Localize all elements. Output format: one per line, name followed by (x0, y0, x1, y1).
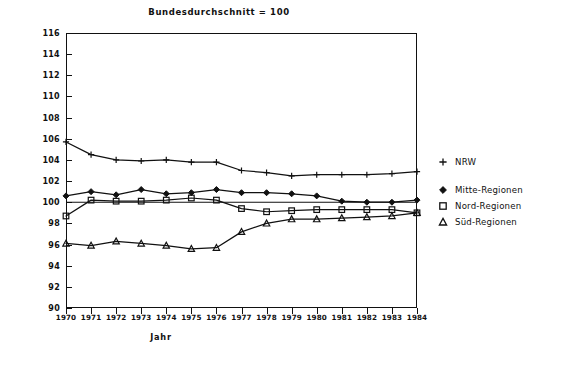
series-s-d-regionen (63, 210, 420, 252)
x-tick-label: 1976 (206, 313, 226, 322)
plus-marker-icon (389, 171, 395, 177)
y-tick-label: 94 (26, 261, 60, 270)
plus-marker-icon (238, 167, 244, 173)
x-tick-label: 1973 (131, 313, 151, 322)
plus-marker-icon (163, 157, 169, 163)
x-tick-label: 1982 (357, 313, 377, 322)
legend-item-label: NRW (450, 157, 476, 167)
plus-marker-icon (289, 173, 295, 179)
diamond-marker-icon (436, 183, 450, 197)
diamond-marker-icon (264, 190, 270, 196)
x-tick-label: 1972 (106, 313, 126, 322)
diamond-marker-icon (113, 192, 119, 198)
x-tick-label: 1974 (156, 313, 176, 322)
legend-item-label: Mitte-Regionen (450, 185, 523, 195)
y-tick-label: 114 (26, 50, 60, 59)
plus-marker-icon (188, 159, 194, 165)
legend-item-nrw[interactable]: NRW (436, 155, 560, 169)
plus-marker-icon (113, 157, 119, 163)
series-layer (66, 33, 417, 308)
plus-marker-icon (263, 170, 269, 176)
chart-legend: NRWMitte-RegionenNord-RegionenSüd-Region… (436, 155, 560, 231)
plus-marker-icon (364, 172, 370, 178)
diamond-marker-icon (339, 198, 345, 204)
y-tick-label: 104 (26, 155, 60, 164)
y-tick-label: 106 (26, 134, 60, 143)
diamond-marker-icon (389, 199, 395, 205)
y-tick-label: 98 (26, 219, 60, 228)
x-tick-label: 1971 (81, 313, 101, 322)
diamond-marker-icon (314, 193, 320, 199)
x-tick-label: 1970 (56, 313, 76, 322)
x-tick-label: 1980 (307, 313, 327, 322)
x-tick-label: 1977 (231, 313, 251, 322)
y-tick-label: 112 (26, 71, 60, 80)
legend-item-label: Süd-Regionen (450, 217, 517, 227)
plus-marker-icon (213, 159, 219, 165)
y-tick-label: 108 (26, 113, 60, 122)
plus-marker-icon (63, 139, 69, 145)
series-nrw (63, 139, 420, 179)
x-axis-title: Jahr (0, 332, 442, 342)
x-tick-label: 1983 (382, 313, 402, 322)
plus-marker-icon (339, 172, 345, 178)
legend-item-s-d-regionen[interactable]: Süd-Regionen (436, 215, 560, 229)
x-tick-label: 1984 (407, 313, 427, 322)
chart-container: Bundesdurchschnitt = 100 909294969810010… (0, 0, 562, 367)
y-tick-label: 96 (26, 240, 60, 249)
x-tick-label: 1978 (256, 313, 276, 322)
y-tick-label: 102 (26, 177, 60, 186)
diamond-marker-icon (364, 199, 370, 205)
diamond-marker-icon (239, 190, 245, 196)
x-tick-label: 1979 (281, 313, 301, 322)
diamond-marker-icon (138, 187, 144, 193)
plus-marker-icon (414, 168, 420, 174)
diamond-marker-icon (163, 191, 169, 197)
diamond-marker-icon (63, 193, 69, 199)
legend-item-mitte-regionen[interactable]: Mitte-Regionen (436, 183, 560, 197)
diamond-marker-icon (289, 191, 295, 197)
y-tick-label: 116 (26, 29, 60, 38)
diamond-marker-icon (213, 187, 219, 193)
plus-marker-icon (138, 158, 144, 164)
triangle-marker-icon (436, 215, 450, 229)
square-marker-icon (436, 199, 450, 213)
x-tick-label: 1981 (332, 313, 352, 322)
x-tick-label: 1975 (181, 313, 201, 322)
diamond-marker-icon (88, 189, 94, 195)
y-tick-label: 110 (26, 92, 60, 101)
y-tick-label: 100 (26, 198, 60, 207)
plus-marker-icon (88, 152, 94, 158)
chart-title: Bundesdurchschnitt = 100 (0, 7, 500, 17)
plus-marker-icon (436, 155, 450, 169)
legend-item-nord-regionen[interactable]: Nord-Regionen (436, 199, 560, 213)
plus-marker-icon (314, 172, 320, 178)
y-tick-label: 90 (26, 304, 60, 313)
y-tick-label: 92 (26, 282, 60, 291)
legend-item-label: Nord-Regionen (450, 201, 521, 211)
